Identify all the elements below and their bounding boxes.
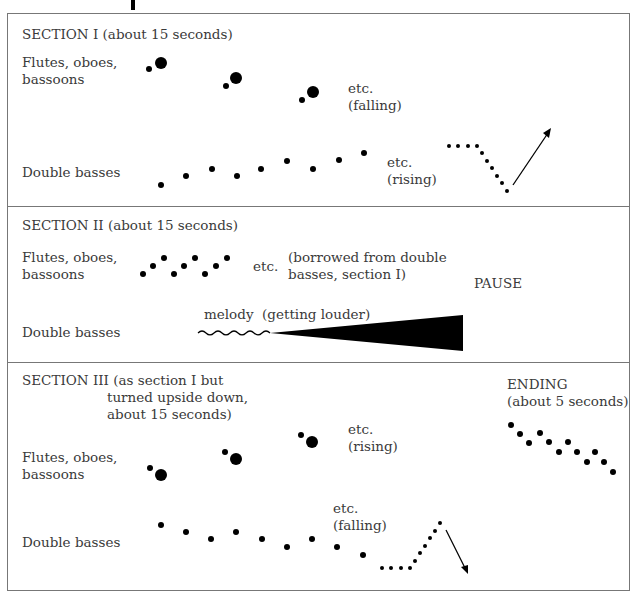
section-3-panel: SECTION III (as section I but turned ups… [7, 362, 630, 591]
section-3-notation [8, 363, 631, 592]
section-1-notation [8, 14, 631, 208]
section-2-panel: SECTION II (about 15 seconds) Flutes, ob… [7, 206, 630, 363]
section-1-panel: SECTION I (about 15 seconds) Flutes, obo… [7, 13, 630, 207]
cropped-header-fragment [0, 0, 634, 12]
section-2-notation [8, 207, 631, 364]
